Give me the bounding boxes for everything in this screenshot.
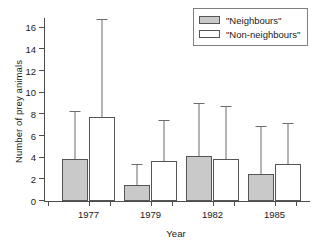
y-axis-tick-label: 10 [25,87,36,98]
x-axis-tick [151,202,152,206]
x-axis-minor-tick [48,202,49,206]
x-axis-tick [275,202,276,206]
y-axis-tick-label: 4 [31,152,36,163]
error-bar-cap [256,126,267,127]
error-bar-cap [159,120,170,121]
y-axis-tick-label: 16 [25,22,36,33]
bar [62,159,88,201]
bar [186,156,212,201]
error-bar-stem [199,104,200,156]
legend-label-neighbours: "Neighbours" [226,15,281,26]
x-axis-tick [89,202,90,206]
error-bar-cap [70,111,81,112]
error-bar-stem [164,121,165,161]
error-bar-cap [221,106,232,107]
x-axis-tick-label: 1979 [140,209,161,220]
bar [151,161,177,201]
x-axis-tick-label: 1982 [202,209,223,220]
bar [213,159,239,201]
y-axis-tick: 8 [39,113,44,114]
error-bar-stem [102,20,103,116]
error-bar-cap [132,164,143,165]
legend-item-non-neighbours: "Non-neighbours" [199,27,300,41]
y-axis-line [44,18,45,202]
legend-item-neighbours: "Neighbours" [199,13,300,27]
error-bar-stem [288,124,289,164]
y-axis-tick: 12 [39,70,44,71]
x-axis-title: Year [42,228,310,239]
legend-swatch-neighbours [199,16,220,24]
legend-label-non-neighbours: "Non-neighbours" [226,29,300,40]
bar-chart-figure: Number of prey animals 0246810121416 197… [0,0,322,245]
error-bar-cap [194,103,205,104]
y-axis-tick-label: 12 [25,65,36,76]
y-axis-title: Number of prey animals [13,32,24,192]
error-bar-cap [97,19,108,20]
y-axis-tick-label: 2 [31,173,36,184]
y-axis-tick: 6 [39,135,44,136]
x-axis-tick-label: 1977 [78,209,99,220]
y-axis-tick: 10 [39,92,44,93]
y-axis-tick: 2 [39,178,44,179]
x-axis-minor-tick [110,202,111,206]
y-axis-tick-label: 14 [25,43,36,54]
y-axis-tick: 0 [39,200,44,201]
y-axis-tick-label: 8 [31,108,36,119]
error-bar-stem [261,127,262,174]
y-axis-tick: 14 [39,48,44,49]
chart-legend: "Neighbours" "Non-neighbours" [193,8,308,46]
y-axis-tick: 16 [39,27,44,28]
x-axis-tick [213,202,214,206]
bar [248,174,274,201]
bar [275,164,301,201]
bar [124,185,150,201]
x-axis-line [44,201,310,202]
error-bar-stem [137,165,138,184]
bar [89,117,115,201]
x-axis-tick-label: 1985 [264,209,285,220]
x-axis-minor-tick [296,202,297,206]
y-axis-tick: 4 [39,157,44,158]
x-axis-minor-tick [234,202,235,206]
x-axis-minor-tick [172,202,173,206]
legend-swatch-non-neighbours [199,30,220,38]
y-axis-tick-label: 0 [31,195,36,206]
error-bar-stem [226,107,227,159]
error-bar-cap [283,123,294,124]
y-axis-tick-label: 6 [31,130,36,141]
error-bar-stem [75,112,76,159]
